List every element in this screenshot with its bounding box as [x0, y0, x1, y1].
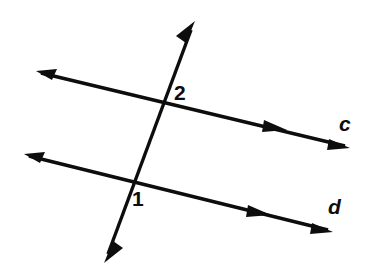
- transversal-bottom-arrowhead: [104, 241, 123, 263]
- line-label-d: d: [328, 196, 341, 217]
- line-d-left-arrowhead: [24, 152, 45, 163]
- angle-label-1: 1: [132, 188, 144, 209]
- geometry-canvas: [0, 0, 375, 274]
- transversal-stroke: [108, 30, 191, 254]
- line-d-right-arrowhead: [310, 223, 333, 234]
- line-label-c: c: [339, 113, 351, 134]
- line-c-left-arrowhead: [36, 69, 57, 80]
- line-d-stroke: [29, 156, 328, 230]
- line-c-right-arrowhead: [327, 139, 350, 150]
- line-c-mid-arrowhead: [262, 120, 287, 132]
- line-c-stroke: [41, 73, 345, 146]
- line-d-mid-arrowhead: [246, 205, 271, 217]
- geometry-figure: 2 1 c d: [0, 0, 375, 274]
- angle-label-2: 2: [174, 82, 186, 103]
- transversal-group: [104, 21, 195, 263]
- line-c-group: [36, 69, 350, 150]
- line-d-group: [24, 152, 333, 234]
- transversal-top-arrowhead: [176, 21, 195, 43]
